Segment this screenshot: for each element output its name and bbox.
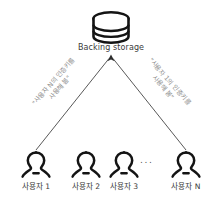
database-cylinder-icon [94,12,129,42]
user-label-1: 사용자 1 [8,180,64,191]
edge-arrowhead-icon [107,55,114,62]
person-icon-user-2 [73,153,100,177]
user-label-3: 사용자 3 [96,180,152,191]
user-label-n: 사용자 N [158,180,214,191]
diagram-canvas: Backing storage "사용자 N의 인증키를 사용해 봄" "사용자… [0,0,222,200]
person-icon-user-3 [111,153,138,177]
users-ellipsis: ... [140,155,153,165]
person-icon-user-n [173,153,200,177]
person-icon-user-1 [23,153,50,177]
backing-storage-label: Backing storage [0,43,222,52]
